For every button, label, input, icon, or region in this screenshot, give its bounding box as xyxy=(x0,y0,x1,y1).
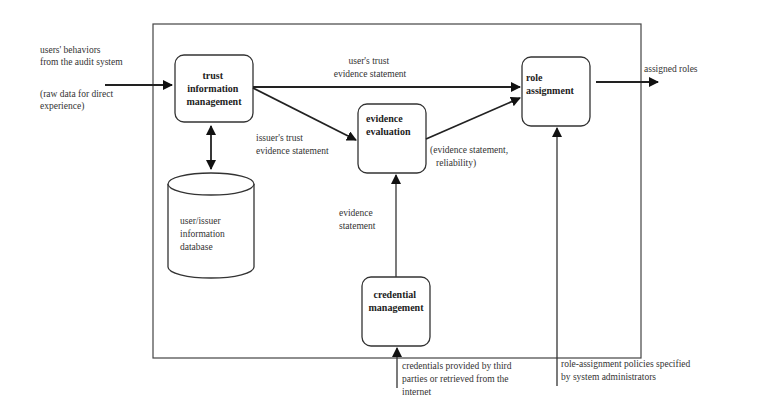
label-issuer-trust: issuer's trust evidence statement xyxy=(256,133,329,156)
label-policies-input: role-assignment policies specified by sy… xyxy=(561,359,693,382)
label-credentials-input: credentials provided by third parties or… xyxy=(402,361,514,397)
node-role-assignment: role assignment xyxy=(522,57,590,126)
label-users-behaviors: users' behaviors from the audit system xyxy=(40,45,123,67)
label-eval-output: (evidence statement, reliability) xyxy=(430,145,510,169)
node-evidence-evaluation: evidence evaluation xyxy=(358,104,426,173)
node-user-issuer-database: user/issuer information database xyxy=(168,173,254,278)
label-assigned-roles: assigned roles xyxy=(644,64,698,74)
label-raw-data: (raw data for direct experience) xyxy=(40,89,115,112)
node-trust-information-management: trust information management xyxy=(175,55,253,122)
label-evidence-statement: evidence statement xyxy=(339,208,376,231)
label-user-trust: user's trust evidence statement xyxy=(334,56,407,79)
arrow-evidence-to-role xyxy=(426,98,520,139)
architecture-diagram: users' behaviors from the audit system (… xyxy=(0,0,759,418)
node-credential-management: credential management xyxy=(362,277,430,346)
